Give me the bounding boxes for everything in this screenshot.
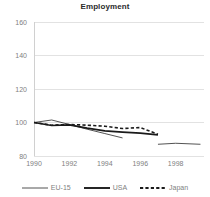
thin-solid-line-swatch (22, 185, 48, 191)
legend-label: Japan (169, 184, 188, 192)
y-axis-tick-label: 120 (15, 86, 27, 93)
chart-legend: EU-15USAJapan (0, 181, 210, 195)
x-axis-tick-labels: 19901992199419961998 (34, 160, 204, 172)
employment-line-chart: Employment 80100120140160 19901992199419… (0, 0, 210, 197)
y-axis-tick-label: 140 (15, 52, 27, 59)
plot-area (34, 22, 204, 156)
data-series-layer (34, 120, 200, 144)
plot-svg (34, 22, 204, 156)
legend-label: USA (113, 184, 127, 192)
x-axis-tick-label: 1992 (62, 160, 78, 168)
legend-item-usa[interactable]: USA (84, 184, 127, 192)
x-axis-tick-label: 1996 (132, 160, 148, 168)
thick-solid-line-swatch (84, 185, 110, 191)
chart-title: Employment (0, 2, 210, 11)
legend-item-eu-15[interactable]: EU-15 (22, 184, 71, 192)
y-axis-tick-label: 160 (15, 19, 27, 26)
y-axis-tick-label: 100 (15, 119, 27, 126)
series-line-eu-15 (158, 143, 201, 144)
x-axis-tick-label: 1990 (26, 160, 42, 168)
y-axis-tick-label: 80 (19, 153, 27, 160)
gridlines (34, 22, 204, 156)
dotted-line-swatch (140, 185, 166, 191)
y-axis-tick-labels: 80100120140160 (0, 22, 30, 156)
x-axis-tick-label: 1994 (97, 160, 113, 168)
legend-item-japan[interactable]: Japan (140, 184, 188, 192)
legend-label: EU-15 (51, 184, 71, 192)
x-axis-tick-label: 1998 (168, 160, 184, 168)
